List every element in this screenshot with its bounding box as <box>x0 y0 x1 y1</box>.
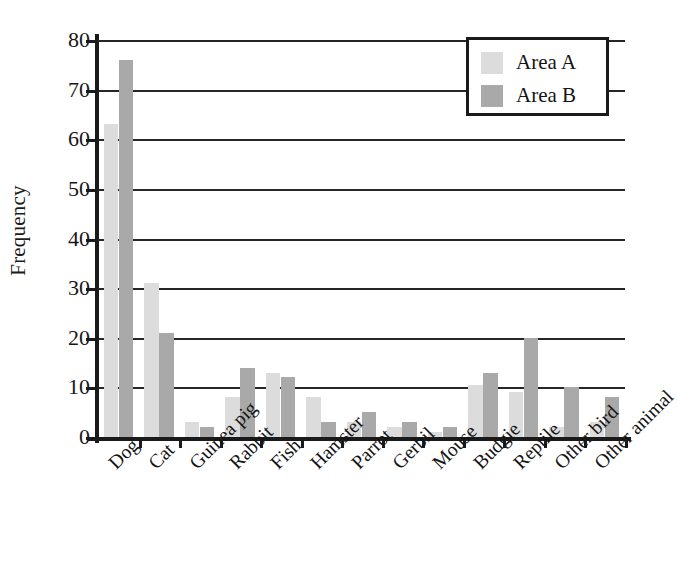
bar <box>144 283 159 437</box>
y-axis-tick-mark <box>86 189 98 192</box>
y-axis-tick-label: 20 <box>20 327 90 349</box>
legend-swatch-area-b <box>481 85 503 107</box>
bar <box>524 338 539 437</box>
bar <box>119 60 134 437</box>
gridline <box>98 288 625 290</box>
bar <box>159 333 174 437</box>
legend-swatch-area-a <box>481 52 503 74</box>
x-axis-category-label: Cat <box>145 439 180 474</box>
gridline <box>98 189 625 191</box>
gridline <box>98 139 625 141</box>
bar <box>306 397 321 437</box>
chart-legend: Area A Area B <box>466 37 609 116</box>
y-axis-tick-mark <box>86 288 98 291</box>
y-axis-tick-mark <box>86 239 98 242</box>
legend-entry-area-b: Area B <box>481 79 606 112</box>
y-axis-tick-mark <box>86 338 98 341</box>
gridline <box>98 338 625 340</box>
y-axis-tick-label: 80 <box>20 29 90 51</box>
y-axis-tick-label: 0 <box>20 426 90 448</box>
legend-label-area-b: Area B <box>516 85 576 106</box>
y-axis-tick-mark <box>86 139 98 142</box>
y-axis-tick-label: 10 <box>20 376 90 398</box>
gridline <box>98 387 625 389</box>
y-axis-tick-label: 40 <box>20 228 90 250</box>
y-axis-tick-mark <box>86 437 98 440</box>
y-axis-tick-label: 60 <box>20 128 90 150</box>
legend-entry-area-a: Area A <box>481 46 606 79</box>
bar <box>185 422 200 437</box>
legend-label-area-a: Area A <box>516 52 576 73</box>
y-axis-tick-label: 30 <box>20 277 90 299</box>
y-axis-tick-label: 70 <box>20 79 90 101</box>
bar <box>104 124 119 437</box>
y-axis-tick-mark <box>86 387 98 390</box>
y-axis-tick-label: 50 <box>20 178 90 200</box>
y-axis-tick-mark <box>86 40 98 43</box>
y-axis-tick-mark <box>86 90 98 93</box>
bar <box>483 373 498 438</box>
x-axis-tick-mark <box>179 437 182 448</box>
gridline <box>98 239 625 241</box>
bar <box>281 377 296 437</box>
bar <box>564 387 579 437</box>
